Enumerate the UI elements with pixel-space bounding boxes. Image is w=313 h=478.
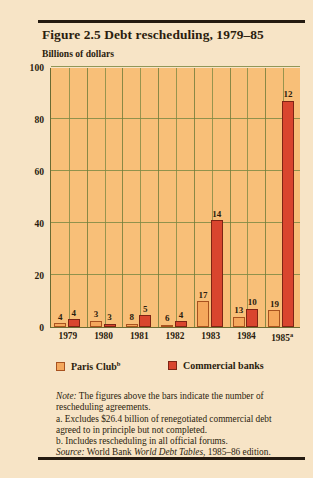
legend-swatch-paris-club — [56, 362, 65, 371]
gridline-vertical — [122, 68, 123, 327]
bar-commercial-banks-1982 — [175, 321, 187, 327]
y-axis-tick-label: 0 — [2, 323, 44, 333]
bar-commercial-banks-1983 — [211, 220, 223, 327]
gridline-vertical-minor — [176, 68, 177, 327]
source-title: World Debt Tables — [134, 447, 203, 457]
footnote-a: a. Excludes $26.4 billion of renegotiate… — [56, 414, 295, 437]
gridline-vertical-minor — [69, 68, 70, 327]
x-axis-tick-label: 1985a — [260, 331, 304, 343]
bar-value-label: 13 — [230, 306, 248, 315]
bar-commercial-banks-1984 — [246, 309, 258, 327]
bar-value-label: 8 — [123, 313, 141, 322]
legend-label-commercial-banks: Commercial banks — [183, 360, 264, 371]
gridline-vertical-minor — [247, 68, 248, 327]
gridline-horizontal — [51, 66, 300, 67]
bar-paris-club-1985 — [268, 310, 280, 327]
page-title: Figure 2.5 Debt rescheduling, 1979–85 — [42, 27, 264, 43]
legend-item-commercial-banks: Commercial banks — [168, 360, 264, 371]
legend-footnote-marker-b: b — [117, 360, 121, 367]
y-axis-tick-label: 20 — [2, 271, 44, 281]
gridline-vertical-minor — [140, 68, 141, 327]
bar-commercial-banks-1985 — [282, 101, 294, 327]
y-axis-label: Billions of dollars — [42, 48, 114, 59]
bar-value-label: 3 — [101, 313, 119, 322]
gridline-vertical — [158, 68, 159, 327]
bar-paris-club-1983 — [197, 301, 209, 327]
note-text: The figures above the bars indicate the … — [56, 391, 264, 412]
gridline-vertical — [230, 68, 231, 327]
figure-panel: Figure 2.5 Debt rescheduling, 1979–85 Bi… — [0, 0, 313, 478]
legend-swatch-commercial-banks — [168, 361, 177, 370]
top-rule — [38, 20, 305, 23]
gridline-vertical-minor — [105, 68, 106, 327]
source-lead: Source: — [56, 447, 85, 457]
bar-commercial-banks-1980 — [104, 324, 116, 327]
bar-value-label: 4 — [65, 309, 83, 318]
bar-commercial-banks-1979 — [68, 319, 80, 327]
bar-commercial-banks-1981 — [139, 315, 151, 327]
legend-item-paris-club: Paris Clubb — [56, 360, 121, 372]
bar-paris-club-1979 — [54, 323, 66, 327]
source-post: , 1985–86 edition. — [203, 447, 271, 457]
plot-area: 44338564171413101912 — [50, 68, 300, 328]
y-axis-tick-label: 60 — [2, 167, 44, 177]
figure-notes: Note: The figures above the bars indicat… — [56, 391, 295, 459]
y-axis-tick-label: 40 — [2, 219, 44, 229]
bottom-rule — [38, 457, 305, 460]
note-lead: Note: — [56, 391, 77, 401]
y-axis-tick-label: 100 — [2, 63, 44, 73]
y-axis-tick-label: 80 — [2, 115, 44, 125]
gridline-vertical — [194, 68, 195, 327]
bar-value-label: 14 — [208, 210, 226, 219]
gridline-vertical — [265, 68, 266, 327]
footnote-b: b. Includes rescheduling in all official… — [56, 436, 295, 447]
bar-value-label: 10 — [243, 298, 261, 307]
bar-paris-club-1984 — [233, 317, 245, 327]
bar-value-label: 5 — [136, 305, 154, 314]
gridline-vertical — [87, 68, 88, 327]
bar-value-label: 12 — [279, 90, 297, 99]
note-line: Note: The figures above the bars indicat… — [56, 391, 295, 414]
bar-paris-club-1982 — [161, 325, 173, 327]
source-pre: World Bank — [85, 447, 134, 457]
x-tick-footnote-marker-a: a — [290, 331, 293, 338]
bar-value-label: 19 — [265, 300, 283, 309]
bar-paris-club-1981 — [126, 324, 138, 327]
bar-value-label: 4 — [172, 311, 190, 320]
legend-label-paris-club: Paris Clubb — [71, 360, 121, 372]
bar-value-label: 17 — [194, 291, 212, 300]
